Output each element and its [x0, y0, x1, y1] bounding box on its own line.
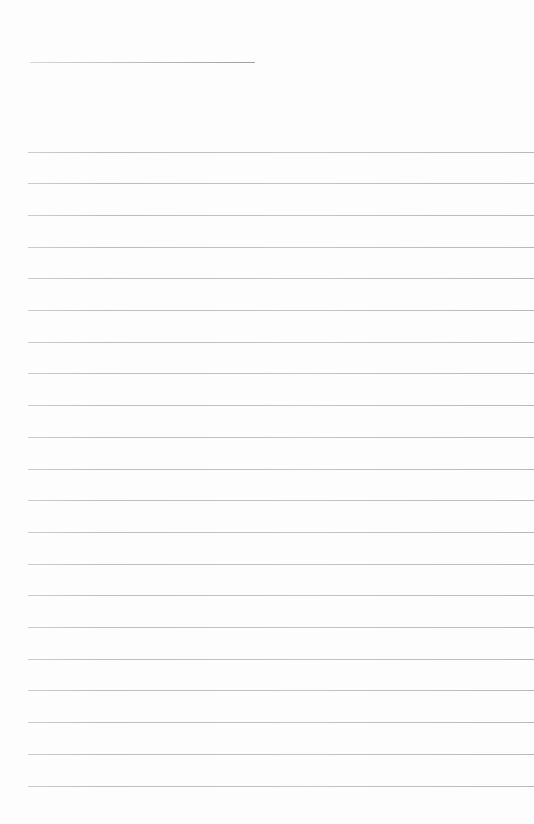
ruled-line: [28, 627, 534, 628]
ruled-line: [28, 786, 534, 787]
ruled-line: [28, 500, 534, 501]
ruled-line: [28, 532, 534, 533]
ruled-line: [28, 373, 534, 374]
ruled-line: [28, 659, 534, 660]
ruled-line: [28, 152, 534, 153]
ruled-line: [28, 183, 534, 184]
ruled-line: [28, 342, 534, 343]
ruled-line: [28, 247, 534, 248]
ruled-line: [28, 564, 534, 565]
ruled-line: [28, 310, 534, 311]
ruled-line: [28, 215, 534, 216]
ruled-line: [28, 278, 534, 279]
header-underline: [30, 62, 255, 63]
ruled-line: [28, 469, 534, 470]
ruled-line: [28, 437, 534, 438]
ruled-line: [28, 405, 534, 406]
ruled-line: [28, 722, 534, 723]
ruled-line: [28, 690, 534, 691]
ruled-line: [28, 595, 534, 596]
ruled-line: [28, 754, 534, 755]
lined-page: [0, 0, 534, 824]
